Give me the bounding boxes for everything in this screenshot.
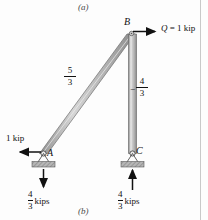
member-force-BC-sign: −: [130, 84, 135, 94]
member-AB: [40, 34, 136, 154]
reaction-C-fraction: 4 3: [118, 190, 123, 211]
reaction-A-numerator: 4: [28, 190, 33, 199]
member-force-BC: 4 3: [136, 77, 148, 98]
reaction-label-A-horizontal: 1 kip: [6, 133, 24, 143]
reaction-C-denominator: 3: [118, 202, 123, 211]
member-force-AB: 5 3: [64, 66, 76, 87]
figure-caption-b: (b): [78, 206, 89, 216]
truss-diagram-canvas: [0, 0, 208, 220]
member-force-AB-denominator: 3: [64, 78, 76, 87]
node-label-C: C: [136, 145, 143, 156]
reaction-A-fraction: 4 3: [28, 190, 33, 211]
reaction-C-numerator: 4: [118, 190, 123, 199]
reaction-label-A-vertical: 4 3 kips: [28, 190, 50, 211]
member-force-AB-numerator: 5: [64, 66, 76, 75]
node-label-B: B: [124, 16, 130, 27]
load-label-Q: Q = 1 kip: [161, 23, 195, 33]
reaction-label-C-vertical: 4 3 kips: [118, 190, 140, 211]
member-force-BC-denominator: 3: [136, 89, 148, 98]
load-equals: =: [168, 23, 178, 33]
reaction-A-denominator: 3: [28, 202, 33, 211]
member-force-BC-numerator: 4: [136, 77, 148, 86]
statics-figure: (a): [0, 0, 208, 220]
node-label-A: A: [47, 147, 53, 158]
reaction-C-units: kips: [125, 196, 140, 206]
load-value: 1 kip: [177, 23, 195, 33]
reaction-A-units: kips: [35, 196, 50, 206]
